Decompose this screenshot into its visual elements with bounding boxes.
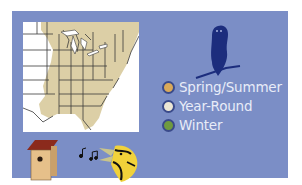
info-card: Spring/Summer Year-Round Winter (12, 11, 288, 178)
season-legend: Spring/Summer Year-Round Winter (162, 78, 282, 135)
range-map (23, 22, 139, 132)
legend-item-winter: Winter (162, 116, 282, 134)
legend-label: Spring/Summer (179, 79, 282, 95)
birdhouse-icon (25, 138, 60, 182)
spring-summer-swatch (162, 81, 175, 94)
year-round-swatch (162, 100, 175, 113)
winter-swatch (162, 119, 175, 132)
singing-bird-head-icon (97, 140, 139, 184)
owl-silhouette-icon (190, 22, 248, 84)
legend-label: Year-Round (179, 98, 252, 114)
legend-label: Winter (179, 117, 222, 133)
legend-item-spring-summer: Spring/Summer (162, 78, 282, 96)
legend-item-year-round: Year-Round (162, 97, 282, 115)
